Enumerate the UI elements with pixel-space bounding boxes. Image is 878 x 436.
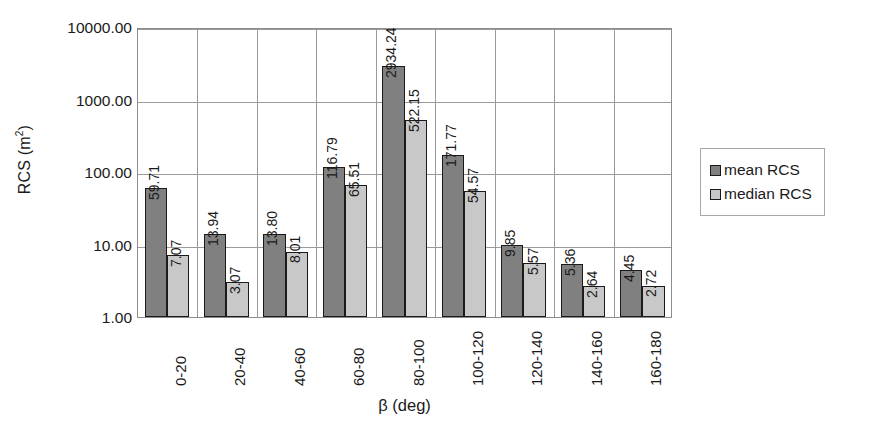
- bar-mean: [263, 234, 285, 317]
- x-axis-tick-label: 40-60: [292, 348, 307, 386]
- y-axis-title-paren: ): [16, 125, 33, 131]
- y-axis-tick-label: 10.00: [40, 238, 132, 253]
- bar-value-label: 13.94: [206, 211, 220, 246]
- x-gridline: [316, 29, 317, 317]
- legend-item-mean: mean RCS: [710, 158, 812, 182]
- x-axis-tick-label: 80-100: [411, 339, 426, 386]
- bar-mean: [323, 167, 345, 317]
- bar-median: [345, 185, 367, 317]
- bar-value-label: 7.07: [169, 240, 183, 267]
- x-gridline: [376, 29, 377, 317]
- y-axis-tick-labels: 1.0010.00100.001000.0010000.00: [38, 0, 132, 436]
- bar-value-label: 65.51: [347, 162, 361, 197]
- x-axis-tick-label: 140-160: [589, 331, 604, 386]
- x-axis-tick-label: 120-140: [529, 331, 544, 386]
- y-axis-tick-label: 10000.00: [40, 20, 132, 35]
- y-axis-title: RCS (m2): [14, 100, 33, 220]
- bar-mean: [204, 234, 226, 317]
- legend-swatch-median-icon: [710, 189, 721, 200]
- x-gridline: [197, 29, 198, 317]
- bar-mean: [145, 188, 167, 317]
- bar-value-label: 9.85: [503, 230, 517, 257]
- legend-item-median: median RCS: [710, 182, 812, 206]
- bar-value-label: 5.36: [563, 249, 577, 276]
- bar-value-label: 2.64: [585, 271, 599, 298]
- bar-value-label: 54.57: [466, 168, 480, 203]
- x-axis-tick-label: 160-180: [648, 331, 663, 386]
- x-gridline: [435, 29, 436, 317]
- bar-mean: [382, 66, 404, 317]
- x-gridline: [495, 29, 496, 317]
- bar-value-label: 13.80: [265, 211, 279, 246]
- bar-value-label: 4.45: [622, 255, 636, 282]
- bar-value-label: 2934.24: [384, 27, 398, 78]
- x-axis-tick-label: 0-20: [173, 356, 188, 386]
- bar-mean: [442, 155, 464, 317]
- bar-value-label: 8.01: [288, 236, 302, 263]
- y-axis-title-text: RCS (m: [16, 136, 33, 194]
- rcs-bar-chart: RCS (m2) 1.0010.00100.001000.0010000.00 …: [0, 0, 878, 436]
- bar-value-label: 2.72: [644, 270, 658, 297]
- x-axis-tick-label: 100-120: [470, 331, 485, 386]
- y-axis-title-exponent: 2: [14, 131, 25, 137]
- x-axis-title: β (deg): [137, 396, 672, 415]
- x-axis-tick-label: 20-40: [232, 348, 247, 386]
- bar-value-label: 522.15: [407, 89, 421, 132]
- x-gridline: [554, 29, 555, 317]
- chart-legend: mean RCS median RCS: [700, 148, 825, 216]
- bar-value-label: 3.07: [228, 266, 242, 293]
- y-axis-tick-label: 1.00: [40, 310, 132, 325]
- bar-value-label: 116.79: [325, 137, 339, 179]
- y-axis-tick-label: 1000.00: [40, 93, 132, 108]
- plot-area: 59.717.0713.943.0713.808.01116.7965.5129…: [137, 28, 672, 318]
- x-gridline: [257, 29, 258, 317]
- bar-value-label: 171.77: [444, 124, 458, 167]
- y-gridline: [138, 29, 671, 30]
- legend-label-mean: mean RCS: [724, 162, 800, 178]
- bar-value-label: 59.71: [147, 165, 161, 200]
- bar-value-label: 5.57: [526, 248, 540, 275]
- x-axis-tick-labels: 0-2020-4040-6060-8080-100100-120120-1401…: [137, 322, 672, 392]
- legend-swatch-mean-icon: [710, 165, 721, 176]
- x-axis-tick-label: 60-80: [351, 348, 366, 386]
- y-axis-tick-label: 100.00: [40, 165, 132, 180]
- bar-median: [405, 120, 427, 317]
- bar-median: [464, 191, 486, 317]
- x-gridline: [614, 29, 615, 317]
- legend-label-median: median RCS: [724, 186, 812, 202]
